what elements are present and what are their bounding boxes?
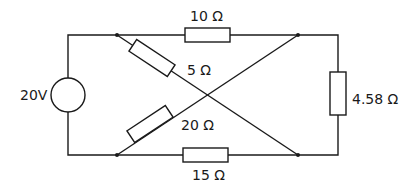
- junction-top-left: [115, 33, 119, 37]
- resistor-20-ohm-icon: [127, 105, 173, 142]
- resistor-5-ohm-icon: [129, 39, 175, 76]
- junction-bottom-left: [115, 153, 119, 157]
- resistor-10-ohm-icon: [185, 28, 230, 42]
- resistor-4-58-ohm-label: 4.58 Ω: [352, 92, 398, 106]
- circuit-diagram: 20V 10 Ω 5 Ω 20 Ω 15 Ω 4.58 Ω: [0, 0, 415, 189]
- wire-left-top: [68, 35, 117, 78]
- source-label: 20V: [20, 88, 47, 102]
- wire-right-top: [298, 35, 338, 72]
- junction-bottom-right: [296, 153, 300, 157]
- resistor-15-ohm-icon: [183, 148, 228, 162]
- wire-left-bottom: [68, 112, 117, 155]
- junction-top-right: [296, 33, 300, 37]
- resistor-4-58-ohm-icon: [330, 72, 346, 115]
- resistor-5-ohm-label: 5 Ω: [187, 63, 211, 77]
- voltage-source-icon: [51, 78, 85, 112]
- resistor-10-ohm-label: 10 Ω: [190, 9, 223, 23]
- resistor-20-ohm-label: 20 Ω: [181, 118, 214, 132]
- resistor-15-ohm-label: 15 Ω: [192, 168, 225, 182]
- wire-right-bottom: [298, 115, 338, 155]
